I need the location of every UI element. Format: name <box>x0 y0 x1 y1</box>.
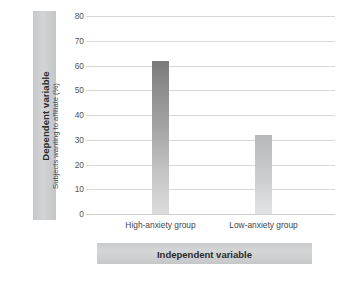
y-axis-tick-labels: 01020304050607080 <box>62 16 84 214</box>
x-axis-category-labels: High-anxiety groupLow-anxiety group <box>86 220 335 234</box>
bar-high-anxiety-group <box>152 61 169 214</box>
gridline <box>86 140 335 141</box>
independent-variable-banner: Independent variable <box>97 243 312 264</box>
y-axis-tick-label: 30 <box>75 135 84 145</box>
y-axis-tick-label: 60 <box>75 61 84 71</box>
gridline <box>86 16 335 17</box>
independent-variable-banner-label: Independent variable <box>157 248 252 259</box>
y-axis-tick-label: 50 <box>75 85 84 95</box>
y-axis-tick-label: 20 <box>75 160 84 170</box>
gridline <box>86 41 335 42</box>
bar-chart-figure: Dependent variable Subjects wanting to a… <box>0 0 346 285</box>
y-axis-title: Subjects wanting to affiliate (%) <box>47 58 63 213</box>
gridline <box>86 90 335 91</box>
gridline <box>86 115 335 116</box>
y-axis-tick-label: 10 <box>75 184 84 194</box>
y-axis-tick-label: 70 <box>75 36 84 46</box>
bar-low-anxiety-group <box>255 135 272 214</box>
y-axis-title-text: Subjects wanting to affiliate (%) <box>51 83 60 189</box>
plot-area <box>86 16 335 214</box>
gridline <box>86 66 335 67</box>
y-axis-tick-label: 40 <box>75 110 84 120</box>
y-axis-tick-label: 80 <box>75 11 84 21</box>
y-axis-tick-label: 0 <box>79 209 84 219</box>
gridline <box>86 165 335 166</box>
x-axis-category-label: Low-anxiety group <box>229 220 297 230</box>
gridline <box>86 189 335 190</box>
x-axis-category-label: High-anxiety group <box>125 220 195 230</box>
gridline <box>86 214 335 215</box>
